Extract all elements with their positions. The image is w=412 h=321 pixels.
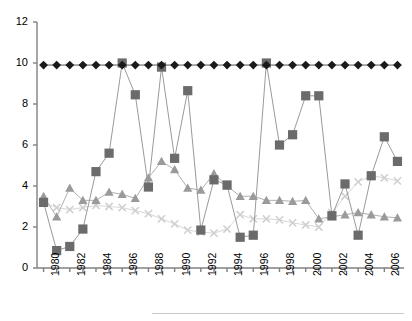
data-point-square (288, 130, 297, 139)
data-point-diamond (314, 61, 323, 70)
data-point-triangle (65, 183, 74, 191)
data-point-diamond (341, 61, 350, 70)
data-point-diamond (105, 61, 114, 70)
data-point-diamond (52, 61, 61, 70)
data-point-cross (132, 207, 139, 214)
data-point-cross (145, 210, 152, 217)
data-point-cross (237, 211, 244, 218)
y-tick-label: 8 (4, 97, 28, 109)
data-point-square (327, 211, 336, 220)
data-point-triangle (170, 165, 179, 173)
data-point-diamond (92, 61, 101, 70)
data-point-square (301, 91, 310, 100)
y-tick-label: 2 (4, 220, 28, 232)
data-point-square (380, 132, 389, 141)
data-point-diamond (249, 61, 258, 70)
y-tick-label: 12 (4, 15, 28, 27)
data-point-diamond (78, 61, 87, 70)
data-point-square (78, 224, 87, 233)
data-point-square (104, 149, 113, 158)
data-point-triangle (354, 208, 363, 216)
data-point-diamond (328, 61, 337, 70)
data-point-square (144, 182, 153, 191)
data-point-diamond (288, 61, 297, 70)
data-point-triangle (104, 188, 113, 196)
data-point-square (354, 231, 363, 240)
x-tick-label: 2000 (311, 253, 323, 276)
y-tick-label: 6 (4, 138, 28, 150)
data-point-square (183, 86, 192, 95)
data-point-square (340, 179, 349, 188)
y-tick-label: 0 (4, 261, 28, 273)
data-point-square (196, 225, 205, 234)
x-tick-label: 2006 (389, 253, 401, 276)
data-point-diamond (170, 61, 179, 70)
data-point-cross (223, 225, 230, 232)
data-point-triangle (183, 183, 192, 191)
data-point-diamond (301, 61, 310, 70)
x-tick-label: 1996 (258, 253, 270, 276)
data-point-diamond (380, 61, 389, 70)
data-point-diamond (183, 61, 192, 70)
x-tick-label: 1986 (127, 253, 139, 276)
data-point-diamond (223, 61, 232, 70)
x-tick-label: 1992 (206, 253, 218, 276)
data-point-cross (355, 178, 362, 185)
y-tick-label: 4 (4, 179, 28, 191)
x-tick-label: 1990 (180, 253, 192, 276)
x-tick-label: 1994 (232, 253, 244, 276)
data-point-square (91, 167, 100, 176)
data-point-square (209, 175, 218, 184)
x-tick-label: 2004 (363, 253, 375, 276)
data-point-cross (171, 220, 178, 227)
data-point-cross (158, 215, 165, 222)
data-point-diamond (131, 61, 140, 70)
y-tick-label: 10 (4, 56, 28, 68)
data-point-triangle (52, 212, 61, 220)
data-point-triangle (131, 194, 140, 202)
data-point-square (236, 233, 245, 242)
series-group-diamond (39, 61, 402, 70)
data-point-square (170, 154, 179, 163)
data-point-diamond (393, 61, 402, 70)
chart-container: 024681012 198019821984198619881990199219… (0, 0, 412, 321)
data-point-diamond (65, 61, 74, 70)
data-point-square (314, 91, 323, 100)
data-point-diamond (210, 61, 219, 70)
data-point-square (367, 171, 376, 180)
data-point-diamond (354, 61, 363, 70)
data-point-square (275, 140, 284, 149)
x-tick-label: 1982 (75, 253, 87, 276)
x-tick-label: 1998 (284, 253, 296, 276)
data-point-square (131, 90, 140, 99)
x-tick-label: 2002 (337, 253, 349, 276)
data-point-square (222, 180, 231, 189)
x-tick-label: 1984 (101, 253, 113, 276)
x-tick-label: 1988 (153, 253, 165, 276)
data-point-diamond (39, 61, 48, 70)
data-point-square (39, 198, 48, 207)
series-group-square (39, 58, 402, 255)
data-point-diamond (236, 61, 245, 70)
data-point-diamond (275, 61, 284, 70)
series-line-square (44, 63, 398, 251)
data-point-square (65, 242, 74, 251)
data-point-triangle (157, 157, 166, 165)
x-tick-label: 1980 (49, 253, 61, 276)
series-group-triangle (39, 157, 402, 223)
data-point-square (249, 231, 258, 240)
data-point-triangle (301, 196, 310, 204)
data-point-square (393, 157, 402, 166)
data-point-diamond (144, 61, 153, 70)
data-point-cross (394, 177, 401, 184)
data-point-diamond (196, 61, 205, 70)
data-point-diamond (367, 61, 376, 70)
